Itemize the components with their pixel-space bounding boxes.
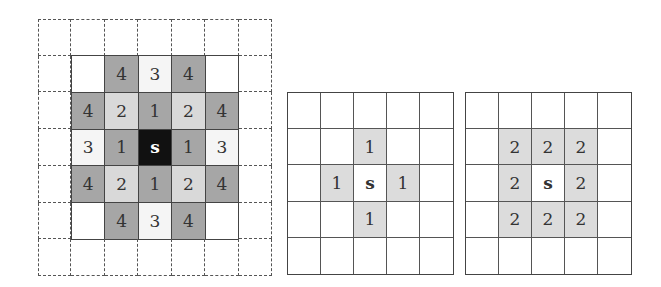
empty-cell (105, 239, 138, 276)
empty-cell (466, 129, 499, 165)
empty-cell (239, 203, 272, 240)
empty-cell (499, 93, 532, 129)
distance-cell: 4 (205, 92, 239, 130)
distance-cell: 3 (138, 55, 172, 93)
empty-cell (105, 19, 138, 56)
distance-cell: 2 (532, 129, 565, 165)
distance-cell: 1 (138, 165, 172, 203)
empty-cell (499, 238, 532, 274)
empty-cell (38, 129, 71, 166)
distance-grid-7x7: 4344212431s1342124434 (38, 19, 272, 276)
distance-cell: 1 (171, 129, 205, 167)
distance-cell: 4 (205, 165, 239, 203)
distance-cell: 1 (354, 202, 387, 238)
empty-cell (288, 165, 321, 201)
empty-cell (466, 202, 499, 238)
empty-cell (205, 202, 239, 240)
empty-cell (598, 129, 631, 165)
distance-cell: 2 (499, 129, 532, 165)
distance-cell: 4 (104, 55, 138, 93)
empty-cell (205, 19, 238, 56)
empty-cell (172, 19, 205, 56)
distance-cell: 2 (499, 202, 532, 238)
distance-cell: 1 (321, 165, 354, 201)
distance-cell: 2 (565, 202, 598, 238)
empty-cell (239, 92, 272, 129)
empty-cell (38, 203, 71, 240)
distance-cell: 2 (565, 129, 598, 165)
distance-cell: 3 (71, 129, 105, 167)
source-cell: s (138, 129, 172, 167)
empty-cell (71, 202, 105, 240)
empty-cell (321, 129, 354, 165)
distance-cell: 4 (71, 92, 105, 130)
distance-cell: 2 (171, 92, 205, 130)
empty-cell (71, 19, 104, 56)
empty-cell (532, 93, 565, 129)
empty-cell (598, 202, 631, 238)
empty-cell (239, 129, 272, 166)
empty-cell (387, 129, 420, 165)
distance-cell: 4 (104, 202, 138, 240)
empty-cell (565, 238, 598, 274)
empty-cell (598, 93, 631, 129)
empty-cell (466, 93, 499, 129)
empty-cell (321, 93, 354, 129)
distance-cell: 2 (171, 165, 205, 203)
distance-cell: 4 (71, 165, 105, 203)
empty-cell (354, 93, 387, 129)
empty-cell (420, 238, 453, 274)
distance-cell: 2 (532, 202, 565, 238)
empty-cell (288, 93, 321, 129)
empty-cell (321, 238, 354, 274)
distance-cell: 4 (171, 55, 205, 93)
empty-cell (138, 19, 171, 56)
empty-cell (420, 202, 453, 238)
empty-cell (205, 55, 239, 93)
empty-cell (38, 92, 71, 129)
empty-cell (38, 166, 71, 203)
empty-cell (565, 93, 598, 129)
empty-cell (239, 239, 272, 276)
empty-cell (239, 166, 272, 203)
distance-cell: 1 (104, 129, 138, 167)
empty-cell (420, 129, 453, 165)
distance-cell: 1 (354, 129, 387, 165)
empty-cell (466, 165, 499, 201)
distance-cell: 2 (104, 92, 138, 130)
source-cell: s (532, 165, 565, 201)
empty-cell (71, 239, 104, 276)
distance-cell: 4 (171, 202, 205, 240)
empty-cell (354, 238, 387, 274)
empty-cell (172, 239, 205, 276)
empty-cell (288, 129, 321, 165)
eight-neighborhood-grid: 2222s2222 (465, 92, 632, 275)
distance-cell: 2 (104, 165, 138, 203)
empty-cell (387, 93, 420, 129)
empty-cell (598, 238, 631, 274)
source-cell: s (354, 165, 387, 201)
empty-cell (387, 202, 420, 238)
empty-cell (38, 19, 71, 56)
distance-cell: 3 (205, 129, 239, 167)
empty-cell (420, 165, 453, 201)
empty-cell (239, 56, 272, 93)
distance-cell: 1 (138, 92, 172, 130)
empty-cell (466, 238, 499, 274)
empty-cell (239, 19, 272, 56)
empty-cell (321, 202, 354, 238)
distance-cell: 2 (499, 165, 532, 201)
four-neighborhood-grid: 11s11 (287, 92, 454, 275)
empty-cell (288, 202, 321, 238)
distance-cell: 1 (387, 165, 420, 201)
distance-cell: 2 (565, 165, 598, 201)
empty-cell (288, 238, 321, 274)
empty-cell (38, 56, 71, 93)
empty-cell (38, 239, 71, 276)
empty-cell (598, 165, 631, 201)
empty-cell (71, 55, 105, 93)
empty-cell (532, 238, 565, 274)
empty-cell (138, 239, 171, 276)
empty-cell (420, 93, 453, 129)
empty-cell (387, 238, 420, 274)
